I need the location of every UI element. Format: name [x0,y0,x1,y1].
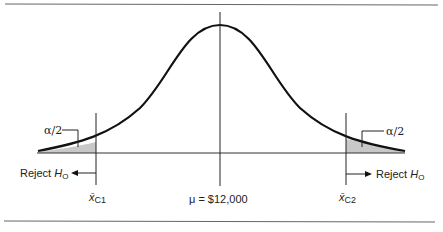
normal-curve-diagram: α/2 α/2 Reject HO Reject HO x̄C1 μ = $12… [0,0,443,232]
reject-right-arrowhead-icon [365,171,372,177]
mean-label: μ = $12,000 [189,193,248,205]
top-rule [5,4,438,5]
xbar-c1-label: x̄C1 [88,191,106,205]
reject-left-arrowhead-icon [71,170,78,176]
reject-right-label: Reject HO [376,168,424,182]
bottom-rule [4,221,435,222]
alpha-left-label: α/2 [44,124,62,137]
bell-curve [38,25,405,151]
reject-left-label: Reject HO [20,167,68,181]
xbar-c2-label: x̄C2 [338,191,356,205]
alpha-right-label: α/2 [386,125,404,138]
